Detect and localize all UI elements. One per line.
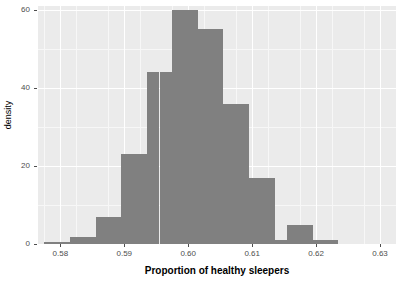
y-axis-tick-label: 0 (0, 239, 30, 248)
gridline-minor-vertical (76, 6, 77, 244)
gridline-minor-vertical (300, 6, 301, 244)
x-axis-title: Proportion of healthy sleepers (38, 265, 396, 276)
histogram-bar (198, 29, 211, 244)
histogram-bar (83, 237, 96, 244)
gridline-minor-vertical (108, 6, 109, 244)
histogram-bar (236, 104, 249, 245)
histogram-bar (44, 242, 57, 244)
gridline-minor-vertical (332, 6, 333, 244)
histogram-bar (275, 240, 288, 244)
histogram-bar (262, 178, 275, 244)
histogram-bar (211, 29, 224, 244)
x-axis-tick (60, 244, 61, 247)
gridline-major-horizontal (38, 10, 396, 11)
x-axis-tick (188, 244, 189, 247)
histogram-bar (57, 242, 70, 244)
gridline-major-vertical (316, 6, 317, 244)
x-axis-tick (380, 244, 381, 247)
y-axis-tick-label: 60 (0, 5, 30, 14)
x-axis-tick (252, 244, 253, 247)
y-axis-tick (34, 88, 37, 89)
y-axis-tick-label: 40 (0, 83, 30, 92)
histogram-bar (134, 154, 147, 244)
gridline-major-vertical (380, 6, 381, 244)
histogram-bar (300, 225, 313, 245)
histogram-bar (249, 178, 262, 244)
plot-panel (38, 6, 396, 244)
x-axis-tick (316, 244, 317, 247)
histogram-bar (313, 240, 326, 244)
histogram-bar (108, 217, 121, 244)
x-axis-tick-label: 0.62 (296, 249, 336, 258)
x-axis-tick-label: 0.60 (168, 249, 208, 258)
y-axis-tick (34, 244, 37, 245)
y-axis-tick (34, 10, 37, 11)
histogram-bar (223, 104, 236, 245)
histogram-bar (160, 72, 173, 244)
histogram-bar (96, 217, 109, 244)
x-axis-tick-label: 0.59 (104, 249, 144, 258)
y-axis-tick (34, 166, 37, 167)
x-axis-tick (124, 244, 125, 247)
y-axis-title: density (3, 85, 13, 145)
histogram-bar (121, 154, 134, 244)
x-axis-tick-label: 0.58 (40, 249, 80, 258)
histogram-bar (147, 72, 160, 244)
gridline-minor-vertical (44, 6, 45, 244)
histogram-bar (185, 10, 198, 244)
histogram-bar (287, 225, 300, 245)
gridline-minor-vertical (364, 6, 365, 244)
gridline-major-vertical (60, 6, 61, 244)
histogram-bar (70, 237, 83, 244)
x-axis-tick-label: 0.63 (360, 249, 400, 258)
x-axis-tick-label: 0.61 (232, 249, 272, 258)
histogram-bar (326, 240, 339, 244)
histogram-chart: Proportion of healthy sleepers density 0… (0, 0, 411, 286)
histogram-bar (172, 10, 185, 244)
y-axis-tick-label: 20 (0, 161, 30, 170)
